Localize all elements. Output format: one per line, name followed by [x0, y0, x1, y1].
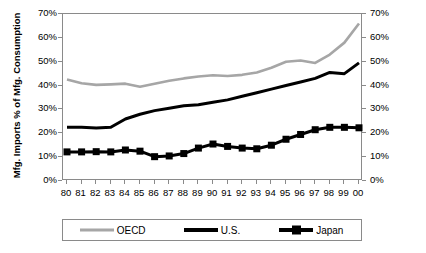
y-axis-left-tick-mark [58, 156, 62, 157]
series-marker-japan [180, 150, 187, 157]
legend-item-us: U.S. [162, 224, 261, 236]
y-axis-left-tick-mark [58, 132, 62, 133]
y-axis-right-tick-mark [362, 180, 366, 181]
x-axis-tick-mark [110, 180, 111, 184]
legend-label-us: U.S. [221, 225, 240, 236]
series-marker-japan [64, 148, 71, 155]
x-axis-tick-mark [256, 180, 257, 184]
line-chart: Mfg. Imports % of Mfg. Consumption 0%10%… [0, 0, 426, 253]
legend-item-japan: Japan [262, 224, 361, 236]
series-marker-japan [195, 145, 202, 152]
series-marker-japan [151, 153, 158, 160]
y-axis-right-tick-label: 10% [370, 151, 410, 161]
series-lines [63, 14, 363, 181]
y-axis-left-tick-label: 60% [17, 32, 57, 42]
x-axis-tick-mark [300, 180, 301, 184]
series-marker-japan [283, 136, 290, 143]
series-marker-japan [326, 124, 333, 131]
series-marker-japan [224, 143, 231, 150]
y-axis-right-tick-mark [362, 108, 366, 109]
series-marker-japan [210, 141, 217, 148]
x-axis-tick-mark [139, 180, 140, 184]
y-axis-right-tick-mark [362, 13, 366, 14]
y-axis-right-tick-label: 60% [370, 32, 410, 42]
y-axis-left-tick-mark [58, 37, 62, 38]
x-axis-tick-mark [81, 180, 82, 184]
series-marker-japan [122, 146, 129, 153]
series-marker-japan [268, 142, 275, 149]
x-axis-tick-mark [124, 180, 125, 184]
x-axis-tick-mark [212, 180, 213, 184]
legend-item-oecd: OECD [63, 224, 162, 236]
series-line-us [67, 63, 359, 128]
y-axis-right-tick-mark [362, 85, 366, 86]
y-axis-right-tick-label: 0% [370, 175, 410, 185]
x-axis-tick-mark [241, 180, 242, 184]
y-axis-left-tick-label: 0% [17, 175, 57, 185]
x-axis-tick-mark [95, 180, 96, 184]
plot-area [62, 13, 362, 180]
x-axis-tick-mark [197, 180, 198, 184]
legend-swatch-oecd-icon [80, 224, 114, 236]
series-marker-japan [107, 148, 114, 155]
series-marker-japan [137, 148, 144, 155]
legend-swatch-japan-icon [279, 224, 313, 236]
series-marker-japan [297, 131, 304, 138]
y-axis-left-tick-label: 50% [17, 56, 57, 66]
series-marker-japan [239, 145, 246, 152]
series-marker-japan [356, 124, 363, 131]
y-axis-left-tick-mark [58, 108, 62, 109]
series-marker-japan [341, 124, 348, 131]
series-marker-japan [312, 126, 319, 133]
y-axis-right-tick-mark [362, 132, 366, 133]
x-axis-tick-mark [270, 180, 271, 184]
x-axis-tick-mark [343, 180, 344, 184]
y-axis-left-tick-mark [58, 85, 62, 86]
y-axis-left-tick-mark [58, 180, 62, 181]
y-axis-right-tick-label: 20% [370, 127, 410, 137]
x-axis-tick-mark [358, 180, 359, 184]
x-axis-tick-label: 00 [347, 187, 369, 198]
series-marker-japan [78, 148, 85, 155]
x-axis-tick-mark [227, 180, 228, 184]
legend-label-japan: Japan [316, 225, 343, 236]
x-axis-tick-mark [329, 180, 330, 184]
legend-label-oecd: OECD [117, 225, 146, 236]
x-axis-tick-mark [168, 180, 169, 184]
y-axis-left-tick-label: 40% [17, 80, 57, 90]
x-axis-tick-mark [314, 180, 315, 184]
y-axis-left-tick-label: 20% [17, 127, 57, 137]
y-axis-left-tick-mark [58, 13, 62, 14]
y-axis-right-tick-label: 30% [370, 103, 410, 113]
series-marker-japan [93, 148, 100, 155]
y-axis-right-tick-mark [362, 156, 366, 157]
series-marker-japan [253, 145, 260, 152]
y-axis-left-tick-label: 10% [17, 151, 57, 161]
x-axis-tick-mark [154, 180, 155, 184]
y-axis-left-tick-label: 30% [17, 103, 57, 113]
y-axis-right-tick-label: 50% [370, 56, 410, 66]
legend-swatch-us-icon [184, 224, 218, 236]
x-axis-tick-mark [183, 180, 184, 184]
y-axis-right-tick-mark [362, 37, 366, 38]
y-axis-left-tick-label: 70% [17, 8, 57, 18]
x-axis-tick-mark [66, 180, 67, 184]
y-axis-left-tick-mark [58, 61, 62, 62]
y-axis-right-tick-mark [362, 61, 366, 62]
chart-legend: OECD U.S. Japan [62, 219, 362, 241]
series-marker-japan [166, 152, 173, 159]
x-axis-tick-mark [285, 180, 286, 184]
y-axis-right-tick-label: 40% [370, 80, 410, 90]
y-axis-right-tick-label: 70% [370, 8, 410, 18]
